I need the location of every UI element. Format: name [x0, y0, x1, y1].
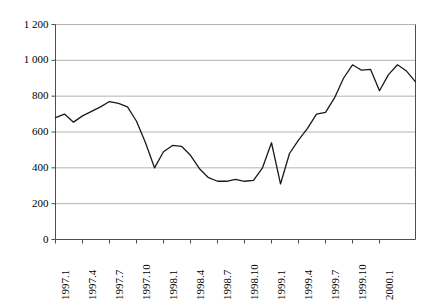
x-tick-label: 1999.1 — [276, 269, 287, 299]
y-axis-ticks — [52, 25, 56, 240]
x-tick-label: 1999.10 — [357, 264, 368, 300]
x-tick-label: 1999.7 — [330, 269, 341, 299]
y-tick-label: 200 — [32, 198, 49, 209]
line-chart: 02004006008001 0001 200 1997.11997.41997… — [0, 0, 436, 306]
y-tick-label: 600 — [32, 126, 49, 137]
x-tick-label: 1998.1 — [168, 269, 179, 299]
x-tick-label: 1997.10 — [141, 264, 152, 300]
plot-area — [0, 0, 436, 306]
y-tick-label: 1 000 — [24, 54, 49, 65]
x-axis-ticks — [56, 240, 380, 244]
x-tick-label: 1997.1 — [60, 269, 71, 299]
x-tick-label: 1997.4 — [87, 269, 98, 299]
data-series-line — [56, 65, 416, 184]
x-tick-label: 1998.7 — [222, 269, 233, 299]
x-tick-label: 1998.10 — [249, 264, 260, 300]
x-tick-label: 2000.1 — [384, 269, 395, 299]
x-tick-label: 1999.4 — [303, 269, 314, 299]
x-tick-label: 1997.7 — [114, 269, 125, 299]
y-tick-label: 800 — [32, 90, 49, 101]
x-tick-label: 1998.4 — [195, 269, 206, 299]
y-tick-label: 0 — [43, 234, 49, 245]
series-polyline — [56, 65, 416, 184]
gridlines — [56, 25, 416, 204]
y-tick-label: 400 — [32, 162, 49, 173]
y-tick-label: 1 200 — [24, 19, 49, 30]
